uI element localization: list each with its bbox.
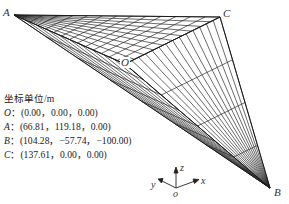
x-arrow-icon <box>193 179 199 184</box>
legend-sep: ： <box>10 121 20 132</box>
point-label-a: A <box>3 7 10 18</box>
legend-point-name: O <box>4 107 11 118</box>
legend-row-a: A：(66.81，119.18，0.00) <box>4 120 131 134</box>
legend-coords: (104.28，−57.74，−100.00) <box>20 135 132 146</box>
point-label-c: C <box>223 8 230 19</box>
point-label-b: B <box>274 187 281 198</box>
legend-row-o: O：(0.00，0.00，0.00) <box>4 106 131 120</box>
legend-coords: (66.81，119.18，0.00) <box>20 121 111 132</box>
z-arrow-icon <box>174 167 178 173</box>
legend-sep: ： <box>10 135 20 146</box>
axis-label-origin: o <box>173 189 178 199</box>
legend-row-c: C：(137.61，0.00，0.00) <box>4 148 131 162</box>
legend-title: 坐标单位/m <box>4 92 131 106</box>
point-label-o: O <box>120 57 130 68</box>
legend-row-b: B：(104.28，−57.74，−100.00) <box>4 134 131 148</box>
axis-label-x: x <box>201 176 205 186</box>
coordinate-legend: 坐标单位/m O：(0.00，0.00，0.00) A：(66.81，119.1… <box>4 92 131 162</box>
axes-triad <box>158 167 199 188</box>
axis-label-y: y <box>151 180 155 190</box>
axis-label-z: z <box>180 163 184 173</box>
legend-coords: (0.00，0.00，0.00) <box>21 107 98 118</box>
legend-sep: ： <box>11 107 21 118</box>
legend-sep: ： <box>10 149 20 160</box>
legend-coords: (137.61，0.00，0.00) <box>20 149 106 160</box>
y-arrow-icon <box>158 179 163 184</box>
